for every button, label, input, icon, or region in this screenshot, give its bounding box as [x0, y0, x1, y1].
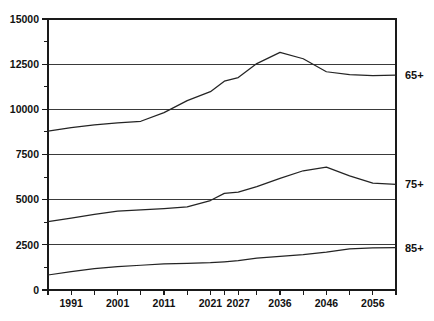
series-labels: 65+75+85+	[405, 69, 424, 254]
y-axis-tick-label: 5000	[16, 193, 40, 205]
series-label-85plus: 85+	[405, 242, 424, 254]
x-axis-tick-label: 2036	[268, 297, 292, 309]
y-axis-ticks	[42, 19, 48, 290]
y-axis-tick-label: 10000	[10, 103, 39, 115]
x-axis-ticks	[48, 290, 396, 295]
y-axis-tick-label: 7500	[16, 148, 40, 160]
series-label-75plus: 75+	[405, 178, 424, 190]
y-axis-tick-label: 0	[33, 284, 39, 296]
x-axis-tick-label: 2046	[315, 297, 339, 309]
y-axis-tick-label: 2500	[16, 239, 40, 251]
population-projection-line-chart: 0250050007500100001250015000 19912001201…	[0, 0, 434, 321]
y-axis-tick-label: 12500	[10, 58, 39, 70]
chart-container: 0250050007500100001250015000 19912001201…	[0, 0, 434, 321]
series-line-85plus	[48, 248, 396, 275]
x-axis-tick-label: 1991	[60, 297, 84, 309]
x-axis-tick-label: 2021	[199, 297, 223, 309]
x-axis-tick-label: 2056	[361, 297, 385, 309]
grid-lines	[48, 19, 396, 245]
x-axis-tick-label: 2001	[106, 297, 130, 309]
series-label-65plus: 65+	[405, 69, 424, 81]
series-line-75plus	[48, 167, 396, 222]
x-axis-tick-labels: 19912001201120212027203620462056	[60, 297, 385, 309]
y-axis-tick-labels: 0250050007500100001250015000	[10, 13, 39, 296]
x-axis-tick-label: 2011	[153, 297, 176, 309]
y-axis-tick-label: 15000	[10, 13, 39, 25]
x-axis-tick-label: 2027	[227, 297, 251, 309]
data-series-group	[48, 52, 396, 275]
